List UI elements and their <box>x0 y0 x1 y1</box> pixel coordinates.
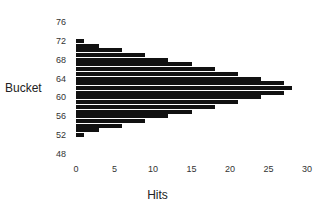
y-axis-label: Bucket <box>5 81 42 95</box>
x-axis-tick: 10 <box>148 163 158 175</box>
bar <box>76 114 168 118</box>
plot-area <box>76 22 307 154</box>
bar-row <box>76 77 307 81</box>
x-axis-ticks: 051015202530 <box>0 163 315 175</box>
y-axis-tick: 48 <box>56 150 66 159</box>
bar-chart: 7672686460565248 Bucket 051015202530 Hit… <box>0 0 315 209</box>
y-axis-tick: 60 <box>56 93 66 102</box>
bar-row <box>76 62 307 66</box>
bar <box>76 39 84 43</box>
bar <box>76 77 261 81</box>
bar <box>76 53 145 57</box>
bar-row <box>76 133 307 137</box>
bar <box>76 91 284 95</box>
y-axis-tick: 52 <box>56 131 66 140</box>
x-axis-tick: 20 <box>225 163 235 175</box>
bar-row <box>76 119 307 123</box>
bar <box>76 124 122 128</box>
bar <box>76 67 215 71</box>
bar <box>76 48 122 52</box>
bar <box>76 119 145 123</box>
bar <box>76 81 284 85</box>
bar-series <box>76 22 307 154</box>
x-axis-tick: 15 <box>186 163 196 175</box>
bar <box>76 86 292 90</box>
y-axis-tick: 68 <box>56 56 66 65</box>
bar-row <box>76 128 307 132</box>
bar-row <box>76 110 307 114</box>
bar <box>76 105 215 109</box>
bar <box>76 110 192 114</box>
bar <box>76 128 99 132</box>
bar-row <box>76 81 307 85</box>
bar-row <box>76 58 307 62</box>
x-axis-label: Hits <box>0 188 315 202</box>
bar-row <box>76 44 307 48</box>
y-axis-tick: 64 <box>56 75 66 84</box>
bar-row <box>76 95 307 99</box>
bar-row <box>76 91 307 95</box>
bar-row <box>76 124 307 128</box>
y-axis-tick: 76 <box>56 18 66 27</box>
bar <box>76 44 99 48</box>
y-axis-tick: 72 <box>56 37 66 46</box>
bar-row <box>76 114 307 118</box>
bar <box>76 133 84 137</box>
x-axis-tick: 25 <box>263 163 273 175</box>
x-axis-tick: 0 <box>73 163 78 175</box>
bar-row <box>76 86 307 90</box>
bar <box>76 100 238 104</box>
bar <box>76 58 168 62</box>
bar-row <box>76 72 307 76</box>
bar <box>76 72 238 76</box>
bar-row <box>76 100 307 104</box>
x-axis-tick: 30 <box>302 163 312 175</box>
bar <box>76 95 261 99</box>
bar-row <box>76 53 307 57</box>
bar-row <box>76 67 307 71</box>
bar <box>76 62 192 66</box>
bar-row <box>76 105 307 109</box>
bar-row <box>76 48 307 52</box>
bar-row <box>76 39 307 43</box>
y-axis-tick: 56 <box>56 112 66 121</box>
y-axis-ticks: 7672686460565248 <box>0 0 76 209</box>
x-axis-tick: 5 <box>112 163 117 175</box>
